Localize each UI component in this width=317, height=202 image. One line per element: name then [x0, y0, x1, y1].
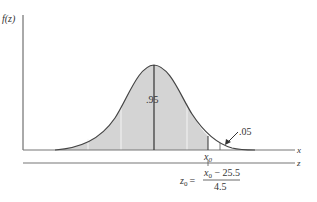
- center-area-label: .95: [146, 94, 159, 105]
- normal-curve-figure: f(z) x z .95 .05 x0 z0= x0 − 25.5 4.5: [0, 0, 317, 202]
- z0-denominator: 4.5: [214, 181, 227, 192]
- y-axis-label: f(z): [2, 13, 16, 25]
- x0-label: x0: [203, 151, 212, 164]
- x-axis-label: x: [296, 145, 301, 155]
- shaded-area-95: [55, 65, 208, 150]
- z0-numerator: x0 − 25.5: [203, 167, 240, 180]
- tail-area-label: .05: [239, 126, 252, 137]
- z-axis-label: z: [296, 158, 301, 168]
- z0-lhs: z0=: [179, 175, 195, 188]
